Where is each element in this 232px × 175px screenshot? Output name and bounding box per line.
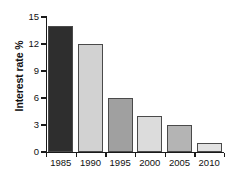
y-axis-tick: [41, 124, 46, 125]
y-axis-tick-label: 0: [14, 147, 39, 157]
bar-2000: [137, 116, 162, 152]
bar-2010: [197, 143, 222, 152]
x-axis-tick: [135, 153, 136, 158]
y-axis-tick-label-text: 9: [14, 66, 39, 76]
bar-2005: [167, 125, 192, 152]
y-axis-tick-label: 6: [14, 93, 39, 103]
x-axis-tick: [224, 153, 225, 158]
y-axis-tick-label-text: 15: [14, 12, 39, 22]
y-axis-tick-label-text: 0: [14, 147, 39, 157]
x-axis-tick: [46, 153, 47, 158]
bar-chart: Interest rate % 036912151985199019952000…: [0, 0, 232, 175]
y-axis-tick-label-text: 12: [14, 39, 39, 49]
y-axis-tick-label-text: 6: [14, 93, 39, 103]
bar-1995: [108, 98, 133, 152]
y-axis-tick-label: 12: [14, 39, 39, 49]
y-axis-tick: [41, 70, 46, 71]
bar-1990: [78, 44, 103, 152]
x-axis-tick: [76, 153, 77, 158]
bar-1985: [48, 26, 73, 152]
y-axis-tick-label: 9: [14, 66, 39, 76]
y-axis-tick: [41, 97, 46, 98]
y-axis-tick-label-text: 3: [14, 120, 39, 130]
x-axis-tick: [165, 153, 166, 158]
y-axis-line: [46, 16, 47, 153]
y-axis-tick-label: 3: [14, 120, 39, 130]
x-axis-tick: [194, 153, 195, 158]
y-axis-tick-label: 15: [14, 12, 39, 22]
x-axis-tick: [105, 153, 106, 158]
y-axis-tick: [41, 43, 46, 44]
x-axis-tick-label: 2010: [192, 158, 226, 168]
y-axis-tick: [41, 16, 46, 17]
